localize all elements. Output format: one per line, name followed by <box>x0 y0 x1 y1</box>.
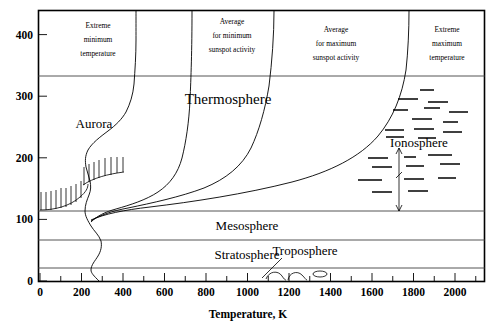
y-tick-label-100: 100 <box>16 213 34 225</box>
note-line-2: for minimum <box>212 31 251 40</box>
label-troposphere: Troposphere <box>272 243 337 258</box>
note-extreme-minimum-temperature: Extreme minimum temperature <box>80 21 116 58</box>
y-tick-label-400: 400 <box>16 29 34 41</box>
note-line-1: Average <box>220 17 245 26</box>
note-line-3: sunspot activity <box>209 45 256 54</box>
aurora-region <box>40 157 124 210</box>
label-stratosphere: Stratosphere <box>215 247 280 262</box>
note-line-2: maximum <box>432 39 462 48</box>
curve-extreme-maximum-temperature <box>91 11 409 220</box>
x-tick-label-1800: 1800 <box>402 286 425 298</box>
x-tick-label-200: 200 <box>73 286 91 298</box>
label-aurora: Aurora <box>76 116 113 131</box>
curve-average-maximum-sunspot <box>91 11 274 221</box>
label-ionosphere: Ionosphere <box>390 135 448 150</box>
note-line-3: temperature <box>80 49 116 58</box>
y-tick-label-300: 300 <box>16 90 34 102</box>
note-extreme-maximum-temperature: Extreme maximum temperature <box>429 25 465 62</box>
x-tick-label-800: 800 <box>197 286 215 298</box>
atmosphere-temperature-profile-figure: 0 100 200 300 400 0 200 400 600 800 1000… <box>0 0 495 326</box>
x-tick-label-1400: 1400 <box>319 286 342 298</box>
y-axis-ticks <box>39 35 48 281</box>
label-thermosphere: Thermosphere <box>185 91 272 107</box>
note-line-1: Average <box>324 25 349 34</box>
note-line-2: for maximum <box>316 39 357 48</box>
x-tick-label-1600: 1600 <box>361 286 384 298</box>
label-mesosphere: Mesosphere <box>216 218 279 233</box>
note-line-1: Extreme <box>434 25 460 34</box>
y-tick-label-200: 200 <box>16 152 34 164</box>
x-tick-label-1200: 1200 <box>278 286 301 298</box>
note-average-minimum-sunspot: Average for minimum sunspot activity <box>209 17 256 54</box>
y-tick-label-0: 0 <box>27 275 33 287</box>
ionosphere-extent-arrow <box>396 148 402 211</box>
x-tick-label-600: 600 <box>156 286 174 298</box>
note-average-maximum-sunspot: Average for maximum sunspot activity <box>313 25 360 62</box>
troposphere-clouds <box>266 271 327 280</box>
note-line-1: Extreme <box>85 21 111 30</box>
x-tick-label-1000: 1000 <box>236 286 259 298</box>
note-line-3: temperature <box>429 53 465 62</box>
note-line-3: sunspot activity <box>313 53 360 62</box>
x-tick-label-0: 0 <box>37 286 43 298</box>
x-axis-ticks <box>40 273 476 281</box>
note-line-2: minimum <box>84 35 113 44</box>
x-axis-title: Temperature, K <box>209 308 288 321</box>
x-tick-label-400: 400 <box>114 286 132 298</box>
x-tick-label-2000: 2000 <box>444 286 467 298</box>
